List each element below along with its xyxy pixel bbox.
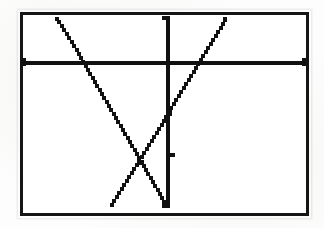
calculator-screenshot: [0, 0, 324, 228]
calculator-screen-frame: [20, 12, 309, 216]
